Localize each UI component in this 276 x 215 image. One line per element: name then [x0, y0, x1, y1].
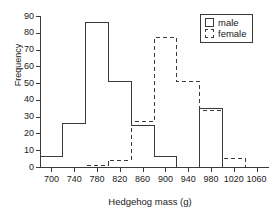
histogram-chart: Frequency 0102030405060708090 7007407808… [0, 0, 276, 215]
solid-square-icon [205, 18, 214, 27]
legend-item-female[interactable]: female [205, 28, 247, 39]
legend-label-female: female [218, 28, 247, 39]
legend-item-male[interactable]: male [205, 17, 247, 28]
x-axis-title: Hedgehog mass (g) [0, 196, 276, 207]
legend-label-male: male [218, 17, 239, 28]
series-path-male [40, 23, 268, 167]
x-axis-title-text: Hedgehog mass (g) [84, 196, 191, 207]
dashed-square-icon [205, 29, 214, 38]
legend: male female [200, 14, 253, 43]
